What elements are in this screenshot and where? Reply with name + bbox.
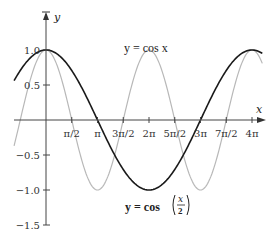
x-tick-label: 5π/2 <box>163 128 186 139</box>
fraction-numerator: x <box>178 194 183 204</box>
right-paren <box>187 195 189 215</box>
cosine-plot: π/2π3π/22π5π/23π7π/24π1.00.5−0.5−1.0−1.5… <box>0 0 272 238</box>
x-axis-arrow-icon <box>257 117 266 123</box>
y-tick-label: −0.5 <box>16 150 40 161</box>
cos-half-prefix: y = cos <box>125 200 160 214</box>
y-tick-label: 1.0 <box>24 45 40 56</box>
x-tick-label: 3π <box>194 128 207 139</box>
y-tick-label: 0.5 <box>24 80 40 91</box>
x-axis-label: x <box>256 103 263 116</box>
x-tick-label: 4π <box>246 128 259 139</box>
y-axis-arrow-icon <box>43 12 49 20</box>
cos-x-annotation: y = cos x <box>124 41 168 55</box>
chart-container: π/2π3π/22π5π/23π7π/24π1.00.5−0.5−1.0−1.5… <box>0 0 272 238</box>
y-tick-label: −1.0 <box>16 185 40 196</box>
fraction-denominator: 2 <box>178 206 183 216</box>
x-tick-label: 7π/2 <box>215 128 238 139</box>
y-tick-label: −1.5 <box>16 220 40 231</box>
left-paren <box>173 195 175 215</box>
x-tick-label: 3π/2 <box>112 128 135 139</box>
cos-half-x-annotation: y = cos x 2 <box>125 194 189 216</box>
x-tick-label: π <box>94 128 101 139</box>
y-axis-label: y <box>53 11 61 24</box>
x-tick-label: π/2 <box>64 128 80 139</box>
x-tick-label: 2π <box>143 128 156 139</box>
